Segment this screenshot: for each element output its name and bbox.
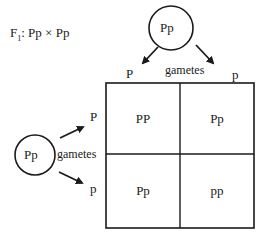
top-gamete-2: p [232, 68, 239, 81]
left-lower-arrow [59, 172, 82, 183]
top-right-arrow [196, 45, 213, 63]
punnett-cell-r2c1: Pp [106, 154, 180, 228]
punnett-cell-r1c1: PP [106, 83, 180, 154]
punnett-cell-r2c2: pp [180, 154, 254, 228]
top-parent-genotype: Pp [160, 21, 174, 34]
top-gamete-1: P [126, 67, 133, 80]
punnett-cell-r1c2: Pp [180, 83, 254, 154]
cross-title: F1: Pp × Pp [10, 25, 69, 43]
top-gametes-label: gametes [165, 64, 204, 76]
top-left-arrow [143, 47, 158, 63]
left-gametes-label: gametes [57, 148, 96, 160]
cross-genotypes: : Pp × Pp [21, 25, 69, 40]
left-parent-genotype: Pp [24, 148, 38, 161]
left-gamete-1: P [90, 110, 97, 123]
left-upper-arrow [60, 127, 83, 138]
left-gamete-2: p [90, 182, 97, 195]
